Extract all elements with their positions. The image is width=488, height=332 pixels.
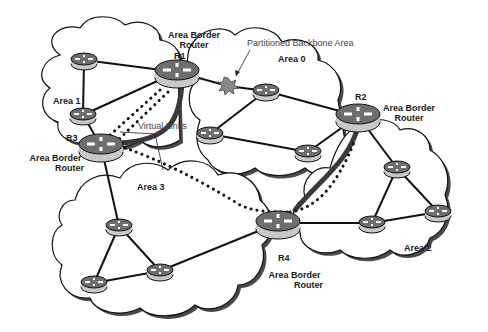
- area1-label: Area 1: [53, 96, 81, 106]
- area3-label: Area 3: [137, 182, 165, 192]
- r2-role-label: Area BorderRouter: [383, 103, 435, 123]
- router-icon[interactable]: [197, 127, 223, 144]
- router-icon[interactable]: [253, 84, 279, 101]
- r4-role-label: Area BorderRouter: [266, 270, 323, 290]
- partitioned-backbone-label: Partitioned Backbone Area: [247, 38, 354, 48]
- router-r4-icon[interactable]: [256, 211, 300, 239]
- area0-cloud: [188, 28, 351, 176]
- router-icon[interactable]: [425, 205, 451, 222]
- r1-role-label: Area BorderRouter: [168, 30, 220, 50]
- r4-label: R4: [278, 253, 290, 263]
- router-icon[interactable]: [81, 276, 107, 293]
- router-icon[interactable]: [359, 216, 385, 233]
- router-icon[interactable]: [147, 264, 173, 281]
- r3-label: R3: [66, 133, 78, 143]
- router-icon[interactable]: [70, 108, 96, 125]
- r3-role-label: Area BorderRouter: [27, 153, 84, 173]
- router-icon[interactable]: [106, 219, 132, 236]
- area0-label: Area 0: [278, 54, 306, 64]
- ospf-network-diagram: Area BorderRouter R1 R2 Area BorderRoute…: [0, 0, 488, 332]
- virtual-links-label: Virtual Links: [138, 121, 187, 131]
- r1-label: R1: [174, 51, 186, 61]
- area2-label: Area 2: [404, 243, 432, 253]
- router-r2-icon[interactable]: [336, 104, 380, 132]
- router-icon[interactable]: [295, 145, 321, 162]
- router-icon[interactable]: [71, 53, 97, 70]
- router-r1-icon[interactable]: [155, 60, 199, 88]
- router-r3-icon[interactable]: [79, 134, 123, 162]
- router-icon[interactable]: [384, 161, 410, 178]
- r2-label: R2: [355, 92, 367, 102]
